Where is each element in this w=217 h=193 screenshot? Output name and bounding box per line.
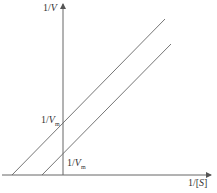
lower-intercept-label: 1/Vm: [67, 158, 86, 170]
y-axis-label: 1/V: [43, 3, 57, 13]
plot-canvas: [0, 0, 217, 193]
lower-line: [42, 44, 171, 175]
upper-intercept-label: 1/Vm: [41, 115, 60, 127]
upper-line: [12, 19, 165, 175]
x-axis-label: 1/[S]: [188, 178, 207, 188]
